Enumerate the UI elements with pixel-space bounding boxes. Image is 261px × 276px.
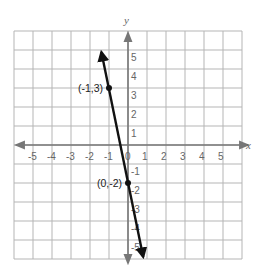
y-tick-label: 3	[131, 90, 137, 101]
labeled-points: (-1,3)(0,-2)	[78, 82, 131, 189]
x-tick-label: 5	[218, 151, 224, 162]
coordinate-plane: -5-4-3-2-101234554321-1-2-3-4-5 x y (-1,…	[0, 0, 261, 276]
y-tick-label: 5	[131, 52, 137, 63]
point-marker	[106, 85, 112, 91]
y-tick-label: 1	[131, 128, 137, 139]
y-tick-label: 4	[131, 71, 137, 82]
point-marker	[125, 180, 131, 186]
tick-labels: -5-4-3-2-101234554321-1-2-3-4-5	[28, 52, 224, 253]
x-tick-label: 0	[125, 151, 131, 162]
x-tick-label: -1	[104, 151, 113, 162]
x-axis-label: x	[245, 139, 251, 151]
y-tick-label: -1	[131, 166, 140, 177]
x-tick-label: -5	[28, 151, 37, 162]
y-tick-label: -5	[131, 242, 140, 253]
y-axis-label: y	[123, 14, 129, 26]
x-tick-label: -3	[66, 151, 75, 162]
point-label: (0,-2)	[97, 177, 122, 189]
x-tick-label: 3	[180, 151, 186, 162]
x-tick-label: 4	[199, 151, 205, 162]
y-tick-label: -2	[131, 185, 140, 196]
x-tick-label: -4	[47, 151, 56, 162]
point-label: (-1,3)	[78, 82, 103, 94]
y-tick-label: 2	[131, 109, 137, 120]
x-tick-label: 2	[161, 151, 167, 162]
x-tick-label: -2	[85, 151, 94, 162]
x-tick-label: 1	[142, 151, 148, 162]
